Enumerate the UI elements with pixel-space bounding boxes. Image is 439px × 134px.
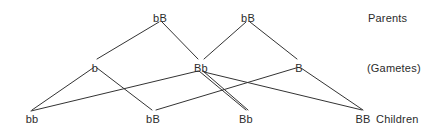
diagram-edge (301, 68, 363, 110)
diagram-edge (97, 22, 159, 59)
row-children-label: Children (376, 113, 419, 125)
row-parents-label: Parents (368, 12, 407, 24)
node-gamete-B: B (295, 62, 303, 74)
node-child-bB: bB (146, 113, 160, 125)
node-child-Bb: Bb (239, 113, 253, 125)
diagram-edge (250, 22, 297, 59)
node-parent-1: bB (153, 12, 167, 24)
node-gamete-Bb: Bb (194, 62, 208, 74)
genetics-cross-diagram: bBbBbBbBbbbBBbBB Parents(Gametes)Childre… (0, 0, 439, 134)
diagram-edge (204, 22, 246, 59)
node-child-BB: BB (355, 113, 370, 125)
diagram-edge (162, 22, 198, 59)
diagram-edge (204, 72, 362, 110)
node-parent-2: bB (241, 12, 255, 24)
row-gametes-label: (Gametes) (367, 62, 421, 74)
node-child-bb: bb (26, 113, 39, 125)
node-gamete-b: b (92, 62, 98, 74)
